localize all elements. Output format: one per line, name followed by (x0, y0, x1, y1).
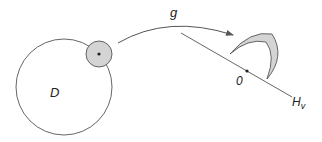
domain-label: D (50, 85, 59, 100)
crescent-image (230, 33, 278, 79)
halfplane-label-sub: v (301, 101, 306, 111)
halfplane-label-main: H (292, 95, 301, 109)
map-arrow (118, 26, 233, 43)
halfplane-label: Hv (292, 95, 306, 111)
boundary-point (97, 52, 100, 55)
origin-label: 0 (236, 74, 243, 88)
diagram-canvas: D g 0 Hv (0, 0, 322, 142)
map-label: g (170, 5, 178, 20)
origin-point (245, 69, 248, 72)
